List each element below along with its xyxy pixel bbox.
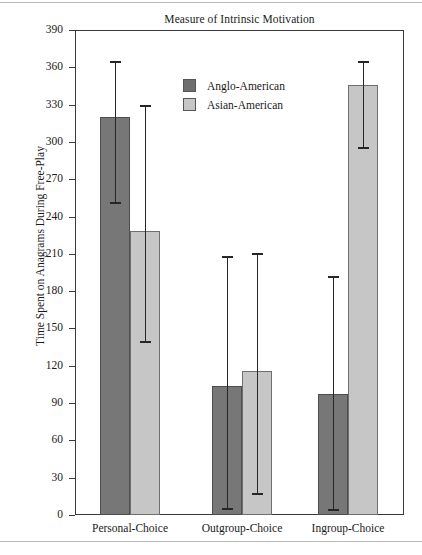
- page-bottom-rule: [0, 541, 422, 542]
- y-axis-tick-label: 150: [46, 320, 63, 335]
- y-axis-tick-label: 360: [46, 59, 63, 74]
- error-bar-cap: [252, 493, 263, 495]
- y-axis-tick: 270: [0, 179, 75, 180]
- y-axis-tick-label: 390: [46, 22, 63, 37]
- y-axis-tick: 390: [0, 30, 75, 31]
- error-bar-cap: [328, 276, 339, 278]
- error-bar: [115, 61, 116, 202]
- chart-legend: Anglo-AmericanAsian-American: [183, 76, 285, 114]
- error-bar-cap: [358, 61, 369, 63]
- legend-swatch: [183, 79, 196, 92]
- error-bar-cap: [110, 61, 121, 63]
- legend-item-asian-american: Asian-American: [183, 95, 285, 114]
- y-axis-tick-label: 270: [46, 171, 63, 186]
- figure: Measure of Intrinsic Motivation Time Spe…: [0, 0, 422, 555]
- legend-label: Anglo-American: [207, 80, 285, 92]
- y-axis-tick: 120: [0, 366, 75, 367]
- y-axis-tick: 60: [0, 440, 75, 441]
- y-axis-tick: 180: [0, 291, 75, 292]
- error-bar: [363, 61, 364, 147]
- error-bar-cap: [222, 256, 233, 258]
- legend-item-anglo-american: Anglo-American: [183, 76, 285, 95]
- error-bar: [145, 105, 146, 341]
- y-axis-tick: 210: [0, 254, 75, 255]
- y-axis-tick: 360: [0, 67, 75, 68]
- y-axis-tick: 300: [0, 142, 75, 143]
- error-bar-cap: [328, 509, 339, 511]
- error-bar-cap: [252, 253, 263, 255]
- y-axis-tick-label: 90: [52, 395, 64, 410]
- error-bar-cap: [140, 105, 151, 107]
- y-axis-tick-label: 330: [46, 97, 63, 112]
- x-axis-label-personal-choice: Personal-Choice: [70, 522, 190, 534]
- x-axis-label-outgroup-choice: Outgroup-Choice: [182, 522, 302, 534]
- x-axis-label-ingroup-choice: Ingroup-Choice: [288, 522, 408, 534]
- y-axis-tick: 240: [0, 217, 75, 218]
- error-bar-cap: [358, 147, 369, 149]
- error-bar-cap: [110, 202, 121, 204]
- y-axis-tick-label: 300: [46, 134, 63, 149]
- y-axis-tick-label: 30: [52, 470, 64, 485]
- legend-swatch: [183, 98, 196, 111]
- y-axis-tick-label: 0: [57, 507, 63, 522]
- error-bar-cap: [140, 341, 151, 343]
- y-axis-tick: 30: [0, 478, 75, 479]
- chart-title: Measure of Intrinsic Motivation: [75, 13, 404, 25]
- error-bar: [333, 276, 334, 509]
- y-axis-title: Time Spent on Anagrams During Free-Play: [34, 36, 46, 456]
- error-bar-cap: [222, 508, 233, 510]
- error-bar: [227, 256, 228, 507]
- bar-ingroup-choice-asian-american: [348, 85, 378, 515]
- y-axis-tick-label: 210: [46, 246, 63, 261]
- y-axis-tick-label: 240: [46, 209, 63, 224]
- y-axis-tick: 150: [0, 328, 75, 329]
- y-axis-tick-label: 180: [46, 283, 63, 298]
- error-bar: [257, 253, 258, 493]
- legend-label: Asian-American: [207, 99, 283, 111]
- page-top-rule: [0, 2, 422, 3]
- y-axis-tick-mark: [69, 515, 75, 516]
- y-axis-tick: 90: [0, 403, 75, 404]
- y-axis-tick-label: 120: [46, 358, 63, 373]
- y-axis-tick-label: 60: [52, 432, 64, 447]
- y-axis-tick: 0: [0, 515, 75, 516]
- y-axis-tick: 330: [0, 105, 75, 106]
